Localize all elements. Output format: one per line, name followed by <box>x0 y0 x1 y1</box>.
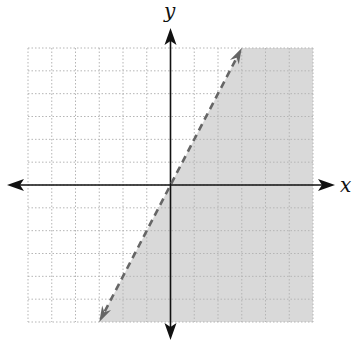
x-axis-label: x <box>340 173 351 197</box>
coordinate-plane: x y <box>0 0 353 343</box>
y-axis-label: y <box>163 0 176 23</box>
